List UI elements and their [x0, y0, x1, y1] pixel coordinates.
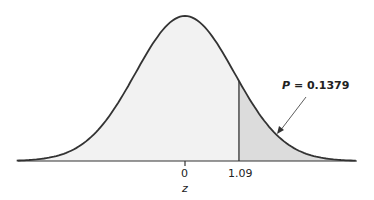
- tick-label-zero: 0: [181, 167, 188, 180]
- x-axis-label: z: [182, 182, 188, 195]
- p-symbol: P: [282, 79, 290, 92]
- right-tail-shaded-area: [239, 81, 356, 161]
- p-value: = 0.1379: [290, 79, 349, 92]
- annotation-arrow: [280, 97, 306, 131]
- probability-annotation: P = 0.1379: [282, 79, 349, 92]
- tick-label-z: 1.09: [228, 167, 253, 180]
